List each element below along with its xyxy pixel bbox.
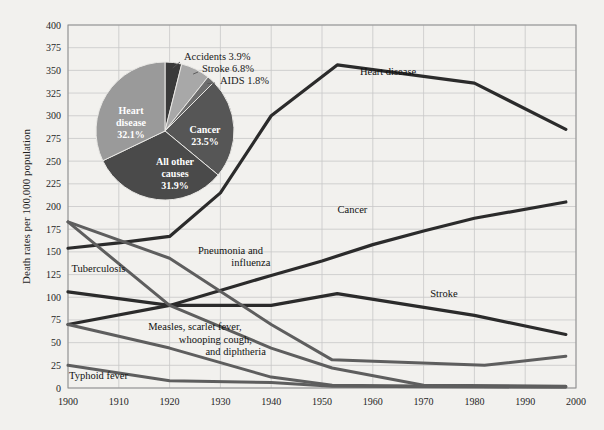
x-tick-label: 1960 (363, 396, 383, 407)
mortality-line-chart: 0255075100125150175200225250275300325350… (0, 0, 604, 430)
x-tick-label: 1920 (160, 396, 180, 407)
y-tick-label: 50 (51, 337, 61, 348)
y-tick-label: 250 (46, 156, 61, 167)
y-tick-label: 400 (46, 20, 61, 31)
series-label: influenza (231, 257, 270, 268)
series-label: and diphtheria (205, 346, 266, 357)
pie-outside-label: AIDS 1.8% (220, 75, 269, 86)
series-label: Measles, scarlet fever, (148, 321, 241, 332)
figure-container: 0255075100125150175200225250275300325350… (0, 0, 604, 430)
y-tick-label: 175 (46, 224, 61, 235)
y-tick-label: 225 (46, 178, 61, 189)
y-tick-label: 275 (46, 133, 61, 144)
pie-inside-label: 23.5% (191, 136, 219, 147)
y-tick-label: 375 (46, 42, 61, 53)
pie-inside-label: causes (161, 168, 188, 179)
pie-outside-label: Accidents 3.9% (184, 51, 251, 62)
y-tick-label: 100 (46, 292, 61, 303)
y-tick-label: 125 (46, 269, 61, 280)
x-tick-label: 1990 (515, 396, 535, 407)
y-tick-label: 300 (46, 110, 61, 121)
x-tick-label: 1910 (109, 396, 129, 407)
pie-inside-label: All other (156, 156, 195, 167)
y-tick-label: 75 (51, 314, 61, 325)
y-tick-label: 200 (46, 201, 61, 212)
pie-inside-label: Cancer (189, 124, 221, 135)
x-tick-label: 2000 (566, 396, 586, 407)
pie-outside-label: Stroke 6.8% (202, 63, 254, 74)
y-tick-label: 150 (46, 246, 61, 257)
x-tick-label: 1950 (312, 396, 332, 407)
y-tick-label: 25 (51, 360, 61, 371)
series-label: Tuberculosis (72, 263, 126, 274)
pie-inside-label: Heart (119, 105, 145, 116)
x-tick-label: 1900 (58, 396, 78, 407)
series-label: Heart disease (360, 66, 417, 77)
series-label: Cancer (338, 204, 368, 215)
pie-inside-label: 32.1% (117, 129, 145, 140)
pie-inside-label: disease (116, 117, 147, 128)
x-tick-label: 1970 (414, 396, 434, 407)
x-tick-label: 1940 (261, 396, 281, 407)
series-label: Stroke (430, 288, 458, 299)
series-label: whooping cough, (179, 334, 252, 345)
y-tick-label: 325 (46, 88, 61, 99)
x-tick-label: 1980 (464, 396, 484, 407)
y-tick-label: 0 (56, 383, 61, 394)
series-label: Typhoid fever (69, 370, 129, 381)
pie-inside-label: 31.9% (161, 180, 189, 191)
series-label: Pneumonia and (198, 245, 264, 256)
x-tick-label: 1930 (210, 396, 230, 407)
y-axis-title: Death rates per 100,000 population (20, 129, 32, 284)
y-tick-label: 350 (46, 65, 61, 76)
